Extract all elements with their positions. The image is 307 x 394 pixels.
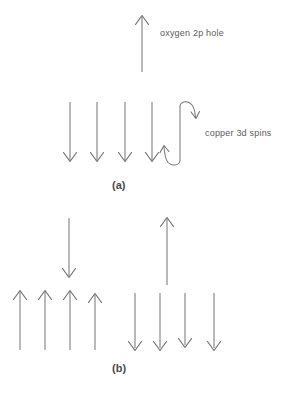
lower-spin-1 — [14, 291, 27, 351]
copper-spin-4 — [146, 102, 159, 162]
lower-spin-4 — [89, 294, 102, 351]
lower-spin-8 — [208, 293, 221, 351]
lower-spin-7 — [179, 293, 192, 348]
lower-spin-3 — [64, 291, 77, 351]
copper-spin-1 — [64, 102, 77, 162]
upper-spin-down — [63, 218, 76, 278]
panel-b-group — [14, 218, 221, 351]
upper-spin-up — [161, 218, 174, 286]
panel-b-caption: (b) — [112, 362, 126, 374]
copper-spin-3 — [119, 102, 132, 162]
spin-flip-curved-arrow — [160, 102, 200, 165]
lower-spin-6 — [154, 293, 167, 351]
spin-diagram-canvas — [0, 0, 307, 394]
lower-spin-2 — [39, 291, 52, 351]
oxygen-2p-hole-arrow — [136, 16, 149, 73]
lower-spin-5 — [129, 293, 142, 351]
panel-a-caption: (a) — [112, 179, 125, 191]
copper-spin-2 — [91, 102, 104, 162]
figure-root: oxygen 2p hole copper 3d spins (a) (b) — [0, 0, 307, 394]
oxygen-2p-hole-label: oxygen 2p hole — [160, 28, 224, 38]
copper-3d-spins-label: copper 3d spins — [205, 128, 272, 138]
